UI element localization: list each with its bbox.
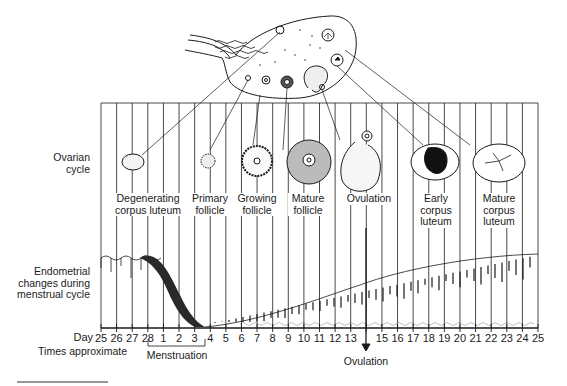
menstruation-label: Menstruation	[145, 350, 209, 362]
stage-label-line: Mature	[480, 193, 518, 205]
day-tick-label: 5	[218, 332, 234, 344]
stage-label-line: Ovulation	[345, 193, 393, 205]
day-tick-label: 26	[109, 332, 125, 344]
stage-label-primary-follicle: Primary follicle	[191, 193, 229, 216]
ovulation-axis-label: Ovulation	[340, 356, 392, 368]
day-tick-label: 21	[468, 332, 484, 344]
day-tick-label: 18	[421, 332, 437, 344]
ovarian-cycle-label-line: cycle	[53, 164, 90, 176]
day-tick-label: 7	[249, 332, 265, 344]
day-tick-label: 23	[499, 332, 515, 344]
day-tick-label: 3	[187, 332, 203, 344]
day-tick-label: 27	[124, 332, 140, 344]
ovarian-cycle-label-line: Ovarian	[53, 152, 90, 164]
day-tick-label: 1	[155, 332, 171, 344]
stage-label-line: follicle	[288, 205, 328, 217]
ovary-illustration	[185, 16, 356, 98]
day-tick-label: 8	[265, 332, 281, 344]
day-tick-label: 2	[171, 332, 187, 344]
ovarian-cycle-label: Ovarian cycle	[53, 152, 90, 175]
day-tick-label: 13	[343, 332, 359, 344]
stage-label-line: Degenerating	[108, 193, 188, 205]
stage-label-line: Growing	[236, 193, 278, 205]
day-tick-label: 6	[233, 332, 249, 344]
day-axis-label: Day	[73, 332, 93, 344]
day-tick-label: 15	[374, 332, 390, 344]
day-tick-label: 4	[202, 332, 218, 344]
stage-label-line: luteum	[418, 216, 454, 228]
stage-label-line: luteum	[480, 216, 518, 228]
menstrual-shedding	[140, 256, 205, 327]
day-tick-label: 17	[405, 332, 421, 344]
stage-label-line: Primary	[191, 193, 229, 205]
mature-corpus-luteum-drawing	[473, 144, 525, 182]
day-tick-label: 11	[312, 332, 328, 344]
times-approximate-note: Times approximate	[38, 346, 127, 358]
stage-label-early-corpus-luteum: Early corpus luteum	[418, 193, 454, 228]
primary-follicle-drawing	[201, 154, 215, 168]
day-tick-label: 12	[327, 332, 343, 344]
day-tick-label: 25	[530, 332, 546, 344]
degenerating-corpus-luteum-drawing	[122, 154, 144, 170]
day-tick-label: 25	[93, 332, 109, 344]
day-tick-label: 20	[452, 332, 468, 344]
day-tick-label: 24	[514, 332, 530, 344]
leader-lines	[142, 32, 470, 155]
stage-label-line: follicle	[191, 205, 229, 217]
stage-label-line: follicle	[236, 205, 278, 217]
day-tick-label: 22	[483, 332, 499, 344]
endometrial-changes-label: Endometrial changes during menstrual cyc…	[17, 266, 90, 301]
day-tick-label: 9	[280, 332, 296, 344]
day-tick-label: 10	[296, 332, 312, 344]
ovulation-drawing	[341, 142, 381, 191]
endometrial-label-line: Endometrial	[17, 266, 90, 278]
stage-label-mature-corpus-luteum: Mature corpus luteum	[480, 193, 518, 228]
ovarian-stage-drawings	[122, 131, 525, 191]
day-tick-label: 16	[390, 332, 406, 344]
stage-label-line: Early	[418, 193, 454, 205]
day-tick-label: 28	[140, 332, 156, 344]
endometrial-label-line: menstrual cycle	[17, 289, 90, 301]
stage-label-line: corpus luteum	[108, 205, 188, 217]
stage-label-ovulation: Ovulation	[345, 193, 393, 205]
day-tick-label: 19	[436, 332, 452, 344]
stage-label-mature-follicle: Mature follicle	[288, 193, 328, 216]
stage-label-degenerating-corpus-luteum: Degenerating corpus luteum	[108, 193, 188, 216]
stage-label-line: Mature	[288, 193, 328, 205]
stage-label-growing-follicle: Growing follicle	[236, 193, 278, 216]
